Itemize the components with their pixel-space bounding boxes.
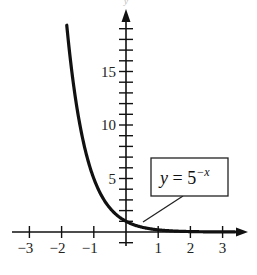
y-tick-label: 10 [101,117,116,133]
x-tick-label: 1 [154,240,162,256]
x-tick-label: −2 [50,240,66,256]
callout-exponent: −x [196,165,210,179]
y-tick-label: 5 [109,171,117,187]
x-tick-label: 3 [219,240,227,256]
y-axis-arrow-icon [122,9,131,22]
y-tick-label: 15 [101,64,116,80]
x-tick-label: −1 [82,240,98,256]
x-axis-arrow-icon [236,228,248,237]
equation-callout: y = 5−x [143,158,228,222]
callout-leader-line [143,196,183,222]
chart: −3−2−112351015 y = 5−x y [0,0,257,275]
callout-variable: y [158,168,168,188]
x-tick-label: −3 [17,240,33,256]
y-axis-label: y [123,0,128,6]
exponential-curve [67,25,235,232]
tick-marks [29,29,222,243]
x-tick-label: 2 [187,240,195,256]
callout-equals: = 5 [168,168,196,188]
